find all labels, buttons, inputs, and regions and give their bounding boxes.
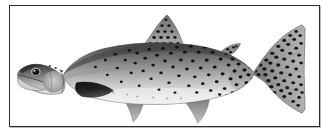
fish-head (18, 64, 65, 94)
eye (31, 68, 41, 77)
figure-plate (10, 6, 319, 126)
fish-body-group (18, 15, 306, 123)
operculum (43, 71, 65, 93)
trout-illustration (10, 6, 319, 126)
caudal-fin (252, 25, 305, 114)
figure-frame (9, 5, 320, 127)
figure-root (0, 0, 332, 138)
